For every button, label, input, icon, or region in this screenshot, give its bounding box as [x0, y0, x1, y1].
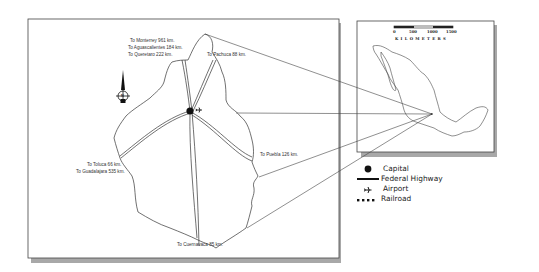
compass-north-letter: N — [121, 93, 124, 99]
legend-highway-symbol — [357, 178, 379, 180]
legend-railroad-label: Railroad — [381, 194, 411, 203]
scale-tick-0: 0 — [393, 29, 396, 34]
map-graphic — [0, 0, 539, 272]
label-monterrey: To Monterrey 961 km. — [130, 38, 174, 44]
label-queretaro: To Queretaro 222 km. — [128, 52, 172, 58]
legend-railroad-symbol — [357, 199, 374, 201]
legend-capital-label: Capital — [383, 164, 409, 173]
label-puebla: To Puebla 126 km. — [260, 152, 298, 158]
main-panel-frame — [28, 19, 339, 258]
scale-unit-label: K I L O M E T E R S — [395, 36, 446, 41]
legend-airport-icon — [365, 187, 372, 193]
label-aguascalientes: To Aguascalientes 184 km. — [128, 45, 183, 51]
scale-tick-500: 500 — [409, 29, 417, 34]
legend-highway-label: Federal Highway — [381, 174, 443, 183]
city-location-dot — [431, 113, 433, 115]
legend-capital-symbol — [365, 166, 372, 173]
label-toluca: To Toluca 66 km. — [87, 162, 121, 168]
legend-airport-label: Airport — [383, 184, 408, 193]
scale-tick-1000: 1000 — [427, 29, 438, 34]
scale-tick-1500: 1500 — [446, 29, 457, 34]
capital-marker — [186, 107, 193, 114]
label-guadalajara: To Guadalajara 535 km. — [76, 169, 125, 175]
label-pachuca: To Pachuca 88 km. — [207, 52, 246, 58]
label-cuernavaca: To Cuernavaca 85 km. — [177, 242, 223, 248]
